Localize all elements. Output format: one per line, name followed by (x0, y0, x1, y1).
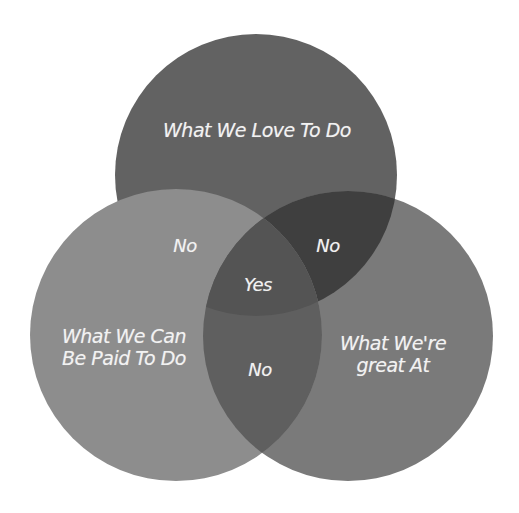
region-center-text: Yes (244, 274, 272, 295)
label-great-at: What We're great At (340, 333, 446, 377)
label-great-line1: What We're (340, 333, 446, 355)
label-region-left-right: No (248, 360, 271, 381)
label-region-center: Yes (244, 275, 272, 296)
label-paid-line2: Be Paid To Do (62, 348, 186, 370)
label-love: What We Love To Do (163, 120, 351, 142)
label-region-top-left: No (173, 236, 196, 257)
label-paid-line1: What We Can (62, 326, 186, 348)
region-top-right-text: No (316, 235, 339, 256)
region-left-right-text: No (248, 359, 271, 380)
label-paid: What We Can Be Paid To Do (62, 326, 186, 370)
region-top-left-text: No (173, 235, 196, 256)
label-love-text: What We Love To Do (163, 119, 351, 141)
label-region-top-right: No (316, 236, 339, 257)
venn-diagram (0, 0, 519, 513)
label-great-line2: great At (340, 355, 446, 377)
